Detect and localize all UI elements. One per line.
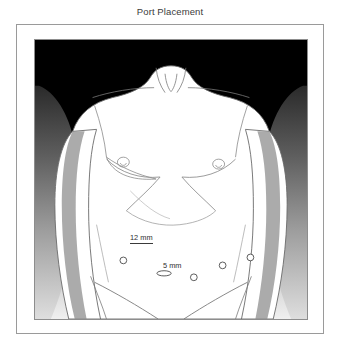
port-left-flank [120, 257, 127, 264]
port-label-12mm-underline [130, 243, 153, 244]
torso-body [69, 66, 274, 319]
port-right-para [219, 262, 226, 269]
port-label-5mm: 5 mm [163, 261, 181, 270]
port-midline [190, 274, 197, 281]
figure-title: Port Placement [0, 6, 340, 17]
torso-illustration [35, 40, 307, 319]
port-umbilical [157, 271, 171, 276]
port-right-flank [247, 254, 254, 261]
figure-root: Port Placement [0, 0, 340, 356]
figure-frame [16, 24, 324, 334]
port-label-12mm-text: 12 mm [130, 233, 153, 242]
port-label-12mm: 12 mm [130, 233, 153, 244]
illustration-panel [34, 39, 308, 320]
